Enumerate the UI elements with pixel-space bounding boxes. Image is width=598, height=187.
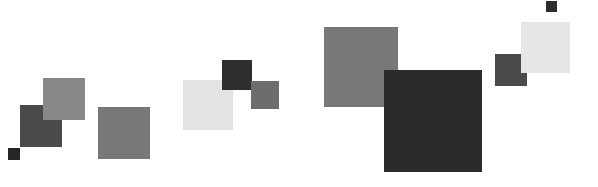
dark-square-middle xyxy=(222,60,252,90)
large-dark-square-right xyxy=(384,70,482,172)
medium-gray-square-middle xyxy=(251,81,279,109)
composition-canvas xyxy=(0,0,598,187)
gray-square-left-lower xyxy=(98,107,150,159)
small-dark-square-top-right xyxy=(546,1,557,12)
gray-square-left-upper xyxy=(43,78,85,120)
light-square-far-right xyxy=(521,22,570,73)
small-dark-square-far-left xyxy=(8,148,20,160)
